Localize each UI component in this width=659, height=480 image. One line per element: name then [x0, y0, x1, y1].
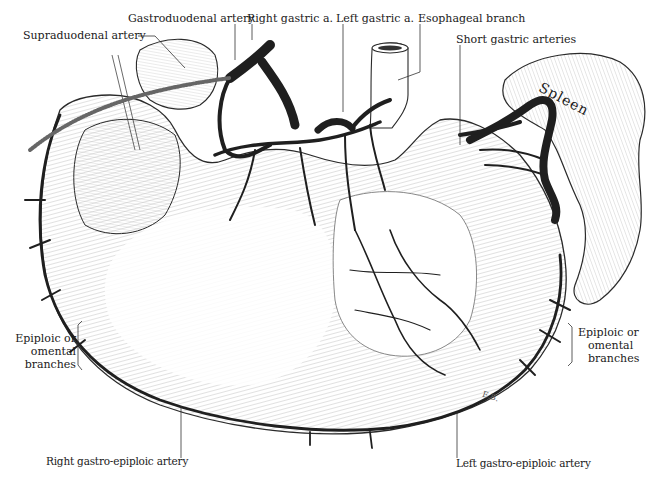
- label-esophageal-branch: Esophageal branch: [418, 12, 525, 25]
- label-right-gastro-epiploic-artery: Right gastro-epiploic artery: [46, 455, 188, 468]
- epiploic-right-line-2: omental: [578, 339, 658, 352]
- label-left-gastric-artery: Left gastric a.: [336, 12, 414, 25]
- anatomical-illustration: [0, 0, 659, 480]
- label-gastroduodenal-artery: Gastroduodenal artery: [128, 12, 254, 25]
- epiploic-left-line-3: branches: [4, 358, 76, 371]
- label-short-gastric-arteries: Short gastric arteries: [456, 33, 576, 46]
- label-right-gastric-artery: Right gastric a.: [247, 12, 333, 25]
- epiploic-left-line-1: Epiploic or: [4, 332, 76, 345]
- epiploic-right-line-1: Epiploic or: [578, 326, 658, 339]
- label-epiploic-branches-left: Epiploic or omental branches: [4, 332, 76, 371]
- label-left-gastro-epiploic-artery: Left gastro-epiploic artery: [456, 457, 591, 470]
- label-supraduodenal-artery: Supraduodenal artery: [23, 29, 146, 42]
- label-epiploic-branches-right: Epiploic or omental branches: [578, 326, 658, 365]
- epiploic-right-line-3: branches: [578, 352, 658, 365]
- esophagus: [370, 43, 408, 128]
- epiploic-left-line-2: omental: [4, 345, 76, 358]
